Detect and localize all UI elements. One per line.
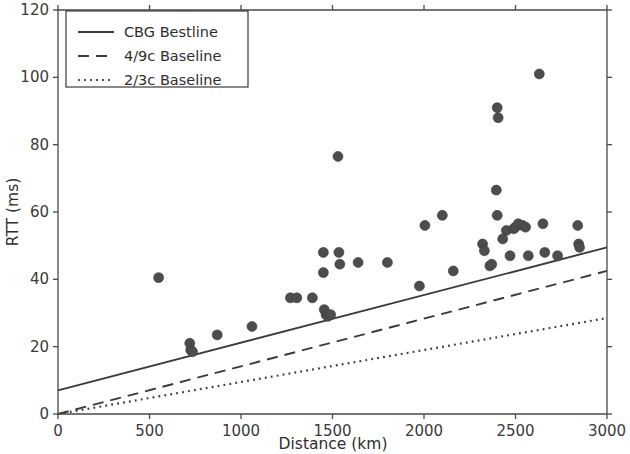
y-tick-label: 80	[30, 136, 49, 154]
x-axis-title: Distance (km)	[279, 435, 388, 453]
data-point	[420, 220, 430, 230]
x-tick-label: 3000	[588, 422, 626, 440]
data-point	[538, 219, 548, 229]
y-axis-tick-labels: 020406080100120	[20, 1, 49, 423]
data-point	[353, 258, 363, 268]
data-point	[534, 69, 544, 79]
chart-legend: CBG Bestline4/9c Baseline2/3c Baseline	[66, 11, 248, 88]
reference-line-dotted	[58, 318, 607, 414]
data-point	[448, 266, 458, 276]
data-point	[335, 259, 345, 269]
x-tick-label: 0	[53, 422, 63, 440]
data-point	[493, 113, 503, 123]
data-point	[492, 103, 502, 113]
data-point	[505, 251, 515, 261]
reference-line-dashed	[58, 271, 607, 414]
data-point	[154, 273, 164, 283]
y-tick-label: 0	[39, 405, 49, 423]
data-point	[382, 258, 392, 268]
data-point	[334, 247, 344, 257]
data-point	[292, 293, 302, 303]
data-point	[307, 293, 317, 303]
data-point	[188, 347, 198, 357]
data-point	[521, 222, 531, 232]
data-point	[573, 220, 583, 230]
y-tick-label: 40	[30, 270, 49, 288]
reference-lines	[58, 247, 607, 414]
x-tick-label: 2500	[496, 422, 534, 440]
data-point	[437, 210, 447, 220]
legend-label: 2/3c Baseline	[124, 72, 221, 88]
data-point	[414, 281, 424, 291]
y-axis-title: RTT (ms)	[4, 178, 22, 247]
legend-label: 4/9c Baseline	[124, 48, 221, 64]
x-tick-label: 1000	[222, 422, 260, 440]
data-point	[212, 330, 222, 340]
data-point	[318, 268, 328, 278]
data-point	[523, 251, 533, 261]
legend-label: CBG Bestline	[124, 24, 218, 40]
scatter-plot: 020406080100120 050010001500200025003000…	[0, 0, 630, 454]
data-point	[479, 246, 489, 256]
data-point	[540, 247, 550, 257]
data-point	[553, 251, 563, 261]
data-point	[333, 151, 343, 161]
data-point	[326, 310, 336, 320]
data-point	[247, 321, 257, 331]
y-tick-label: 120	[20, 1, 49, 19]
y-tick-label: 20	[30, 338, 49, 356]
scatter-points-group	[154, 69, 585, 357]
y-tick-label: 100	[20, 68, 49, 86]
data-point	[318, 247, 328, 257]
x-tick-label: 500	[135, 422, 164, 440]
data-point	[575, 242, 585, 252]
x-tick-label: 2000	[405, 422, 443, 440]
data-point	[491, 185, 501, 195]
chart-figure: 020406080100120 050010001500200025003000…	[0, 0, 630, 454]
y-tick-label: 60	[30, 203, 49, 221]
data-point	[492, 210, 502, 220]
data-point	[487, 259, 497, 269]
